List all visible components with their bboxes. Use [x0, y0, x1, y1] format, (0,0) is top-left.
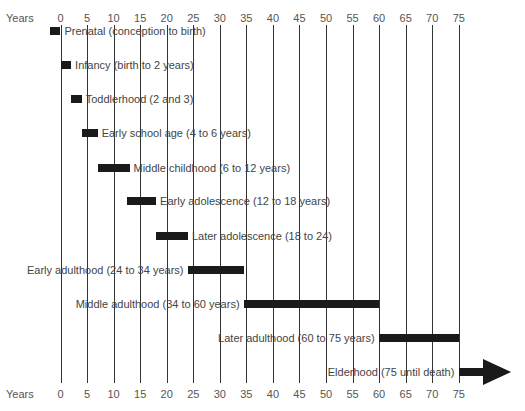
stage-label: Middle childhood (6 to 12 years) — [134, 162, 291, 174]
x-tick-bottom: 0 — [57, 388, 63, 400]
stage-label: Early adolescence (12 to 18 years) — [160, 195, 330, 207]
x-tick-top: 20 — [161, 12, 173, 24]
stage-label: Early adulthood (24 to 34 years) — [27, 264, 184, 276]
stage-label: Prenatal (conception to birth) — [65, 25, 206, 37]
stage-label: Later adolescence (18 to 24) — [192, 230, 332, 242]
x-tick-top: 45 — [293, 12, 305, 24]
gridline — [432, 25, 433, 383]
stage-label: Infancy (birth to 2 years) — [75, 59, 194, 71]
x-tick-top: 15 — [134, 12, 146, 24]
x-tick-top: 40 — [267, 12, 279, 24]
stage-bar — [156, 232, 188, 240]
x-tick-top: 70 — [426, 12, 438, 24]
stage-label: Early school age (4 to 6 years) — [102, 127, 251, 139]
stage-label: Toddlerhood (2 and 3) — [86, 93, 194, 105]
x-tick-bottom: 60 — [373, 388, 385, 400]
stage-bar — [82, 129, 98, 137]
x-tick-bottom: 55 — [346, 388, 358, 400]
stage-bar — [244, 300, 379, 308]
axis-title-bottom: Years — [6, 388, 34, 400]
gridline — [379, 25, 380, 383]
gridline — [406, 25, 407, 383]
axis-title-top: Years — [6, 12, 34, 24]
x-tick-bottom: 20 — [161, 388, 173, 400]
stage-label: Later adulthood (60 to 75 years) — [218, 332, 375, 344]
stage-bar — [50, 27, 61, 35]
x-tick-bottom: 15 — [134, 388, 146, 400]
x-tick-bottom: 30 — [214, 388, 226, 400]
gridline — [353, 25, 354, 383]
stage-bar — [379, 334, 459, 342]
x-tick-bottom: 70 — [426, 388, 438, 400]
x-tick-top: 35 — [240, 12, 252, 24]
x-tick-bottom: 5 — [84, 388, 90, 400]
x-tick-bottom: 35 — [240, 388, 252, 400]
stage-bar — [71, 95, 82, 103]
x-tick-top: 5 — [84, 12, 90, 24]
stage-label: Middle adulthood (34 to 60 years) — [76, 298, 240, 310]
stage-label: Elderhood (75 until death) — [328, 366, 455, 378]
x-tick-bottom: 25 — [187, 388, 199, 400]
x-tick-bottom: 75 — [453, 388, 465, 400]
x-tick-bottom: 50 — [320, 388, 332, 400]
x-tick-top: 25 — [187, 12, 199, 24]
x-tick-bottom: 40 — [267, 388, 279, 400]
stage-bar — [188, 266, 244, 274]
x-tick-bottom: 65 — [400, 388, 412, 400]
x-tick-bottom: 45 — [293, 388, 305, 400]
stage-bar — [127, 197, 156, 205]
x-tick-top: 30 — [214, 12, 226, 24]
x-tick-bottom: 10 — [107, 388, 119, 400]
x-tick-top: 55 — [346, 12, 358, 24]
gridline — [459, 25, 460, 383]
stage-bar — [98, 164, 130, 172]
gridline — [114, 25, 115, 383]
arrow-right-icon — [459, 359, 514, 385]
life-stages-timeline-chart: YearsYears005510101515202025253030353540… — [0, 0, 525, 411]
x-tick-top: 60 — [373, 12, 385, 24]
stage-bar — [61, 61, 72, 69]
gridline — [87, 25, 88, 383]
x-tick-top: 10 — [107, 12, 119, 24]
x-tick-top: 75 — [453, 12, 465, 24]
x-tick-top: 50 — [320, 12, 332, 24]
x-tick-top: 0 — [57, 12, 63, 24]
gridline — [61, 25, 62, 383]
x-tick-top: 65 — [400, 12, 412, 24]
